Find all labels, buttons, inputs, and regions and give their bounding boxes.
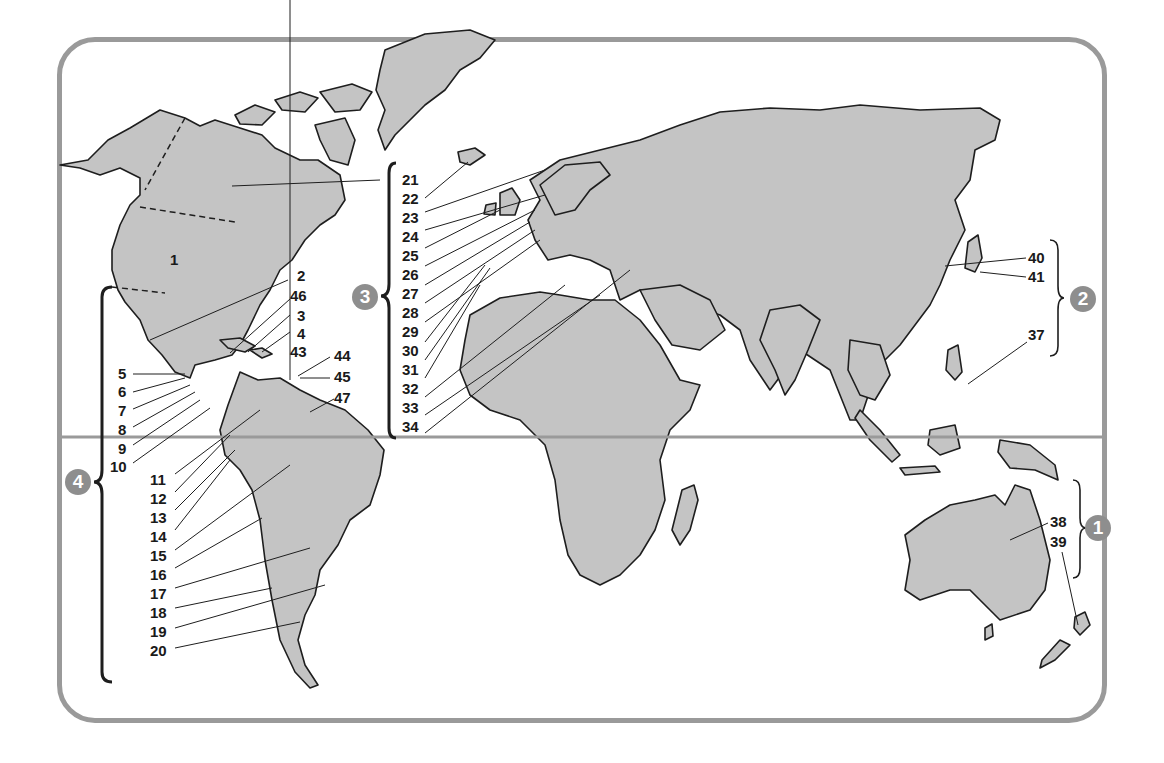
label-north-america: 1	[170, 252, 178, 268]
label-oceania: 38	[1050, 514, 1067, 530]
label-caribbean: 2	[297, 268, 305, 284]
label-east-asia: 41	[1028, 269, 1045, 285]
greenland	[376, 30, 495, 150]
label-central-america: 10	[110, 459, 127, 475]
borneo	[928, 425, 960, 455]
label-oceania: 39	[1050, 534, 1067, 550]
label-europe-africa: 30	[402, 343, 419, 359]
label-caribbean: 46	[290, 288, 307, 304]
label-south-america: 13	[150, 510, 167, 526]
label-europe-africa: 22	[402, 191, 419, 207]
label-south-america: 11	[150, 472, 166, 488]
label-caribbean: 45	[334, 369, 351, 385]
label-central-america: 8	[118, 422, 126, 438]
label-south-america: 18	[150, 605, 167, 621]
label-east-asia: 40	[1028, 250, 1045, 266]
madagascar	[672, 485, 698, 545]
label-central-america: 5	[118, 366, 126, 382]
label-europe-africa: 29	[402, 324, 419, 340]
label-south-america: 16	[150, 567, 167, 583]
bracket-region-4	[94, 287, 112, 682]
region-badge-1: 1	[1085, 515, 1111, 541]
new-zealand-south	[1040, 640, 1070, 668]
region-badge-3: 3	[352, 284, 378, 310]
label-south-america: 20	[150, 643, 167, 659]
java	[900, 466, 940, 475]
australia	[905, 485, 1050, 620]
japan	[965, 235, 982, 272]
label-europe-africa: 31	[402, 362, 419, 378]
arctic-island	[320, 84, 372, 112]
label-caribbean: 3	[297, 308, 305, 324]
label-europe-africa: 27	[402, 286, 419, 302]
label-europe-africa: 28	[402, 305, 419, 321]
label-europe-africa: 24	[402, 229, 419, 245]
region-badge-2: 2	[1070, 286, 1096, 312]
region-badge-4: 4	[65, 469, 91, 495]
label-europe-africa: 32	[402, 381, 419, 397]
iceland	[458, 148, 485, 165]
philippines	[946, 345, 962, 380]
label-europe-africa: 26	[402, 267, 419, 283]
south-america-landmass	[220, 372, 384, 688]
label-south-america: 17	[150, 586, 167, 602]
label-europe-africa: 23	[402, 210, 419, 226]
label-europe-africa: 25	[402, 248, 419, 264]
label-caribbean: 43	[290, 344, 307, 360]
label-caribbean: 47	[334, 390, 351, 406]
label-central-america: 7	[118, 403, 126, 419]
label-central-america: 6	[118, 384, 126, 400]
great-britain	[500, 188, 520, 215]
label-europe-africa: 34	[402, 419, 419, 435]
new-guinea	[998, 440, 1058, 480]
label-caribbean: 4	[297, 326, 305, 342]
label-south-america: 19	[150, 624, 167, 640]
label-south-america: 15	[150, 548, 167, 564]
arctic-island	[315, 118, 355, 165]
label-south-america: 12	[150, 491, 167, 507]
label-east-asia: 37	[1028, 327, 1045, 343]
arctic-island	[275, 92, 318, 112]
bracket-region-2	[1050, 240, 1064, 356]
hispaniola	[250, 348, 272, 358]
tasmania	[985, 624, 993, 640]
label-europe-africa: 33	[402, 400, 419, 416]
label-europe-africa: 21	[402, 172, 419, 188]
label-south-america: 14	[150, 529, 167, 545]
label-caribbean: 44	[334, 348, 351, 364]
label-central-america: 9	[118, 441, 126, 457]
world-map	[0, 0, 1164, 763]
arctic-island	[235, 105, 275, 125]
bracket-region-3	[381, 163, 396, 438]
